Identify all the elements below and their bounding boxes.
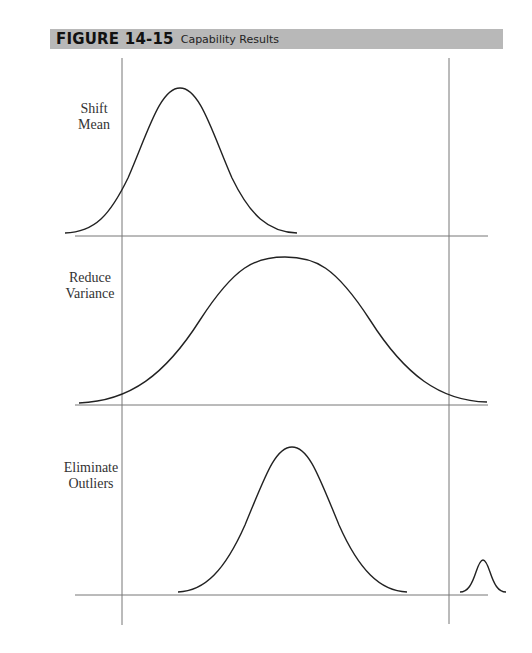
label-eliminate-outliers: Eliminate Outliers xyxy=(46,460,136,492)
reduce-variance-curve xyxy=(79,257,487,403)
label-line: Variance xyxy=(50,286,130,302)
label-line: Mean xyxy=(66,117,122,133)
label-line: Outliers xyxy=(46,476,136,492)
label-line: Reduce xyxy=(50,270,130,286)
label-line: Eliminate xyxy=(46,460,136,476)
label-reduce-variance: Reduce Variance xyxy=(50,270,130,302)
label-shift-mean: Shift Mean xyxy=(66,101,122,133)
capability-diagram xyxy=(0,0,532,653)
eliminate-outliers-curve xyxy=(178,447,407,592)
label-line: Shift xyxy=(66,101,122,117)
outlier-curve xyxy=(460,560,506,592)
